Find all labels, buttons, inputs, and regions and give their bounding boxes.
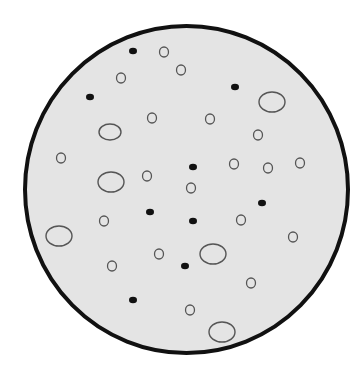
filled-dot [189, 218, 197, 225]
filled-dot [86, 94, 94, 101]
filled-dot [258, 200, 266, 207]
petri-dish-diagram [0, 0, 364, 388]
filled-dot [146, 209, 154, 216]
diagram-canvas [0, 0, 364, 388]
filled-dot [231, 84, 239, 91]
filled-dot [189, 164, 197, 171]
filled-dot [129, 297, 137, 304]
filled-dot [129, 48, 137, 55]
filled-dot [181, 263, 189, 270]
